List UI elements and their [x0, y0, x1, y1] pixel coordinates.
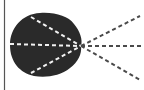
ray-diagram	[0, 0, 144, 90]
ray-upper-outside	[81, 16, 140, 46]
ray-lower-outside	[81, 46, 140, 80]
rays-outside-lens	[81, 16, 144, 80]
